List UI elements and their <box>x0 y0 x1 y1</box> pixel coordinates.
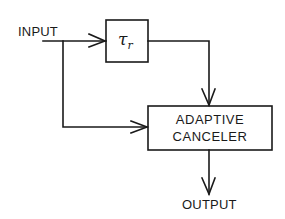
canceler-block-label: ADAPTIVE CANCELER <box>148 111 272 145</box>
block-diagram: INPUT τr ADAPTIVE CANCELER OUTPUT <box>0 0 285 219</box>
tau-symbol: τ <box>118 29 127 49</box>
delay-block-symbol: τr <box>118 31 133 51</box>
output-label: OUTPUT <box>182 198 237 211</box>
delay-to-canceler-line <box>148 41 209 105</box>
canceler-label-line2: CANCELER <box>148 128 272 145</box>
tau-subscript: r <box>127 39 132 52</box>
input-label: INPUT <box>18 25 58 38</box>
input-branch-line <box>63 41 147 127</box>
canceler-label-line1: ADAPTIVE <box>148 111 272 128</box>
